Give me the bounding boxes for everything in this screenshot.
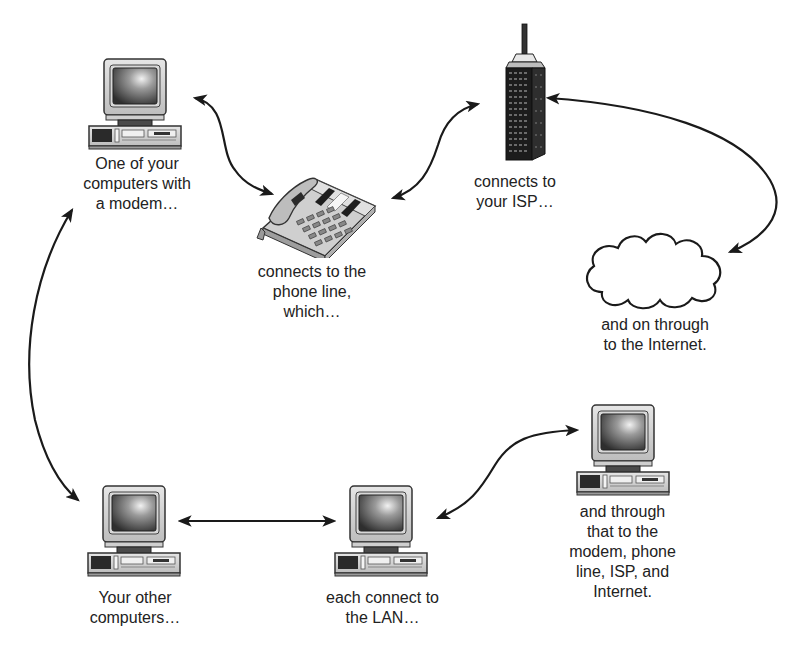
arrow-modem-to-other-computers [29, 210, 78, 500]
desktop-computer-icon [88, 57, 183, 150]
caption-line: computers… [60, 608, 210, 628]
internet-node [580, 222, 728, 318]
caption-line: phone line, [232, 282, 392, 302]
modem-computer-caption: One of your computers with a modem… [52, 154, 222, 214]
skyscraper-building-icon [503, 22, 548, 164]
caption-line: and on through [585, 315, 725, 335]
other-computers-node [87, 484, 182, 581]
caption-line: Your other [60, 588, 210, 608]
caption-line: a modem… [52, 194, 222, 214]
caption-line: computers with [52, 174, 222, 194]
isp-node [503, 22, 548, 168]
caption-line: One of your [52, 154, 222, 174]
telephone-icon [255, 166, 380, 258]
caption-line: Internet. [555, 582, 690, 602]
internet-caption: and on through to the Internet. [585, 315, 725, 355]
caption-line: that to the [555, 522, 690, 542]
caption-line: which… [232, 302, 392, 322]
cloud-icon [580, 222, 728, 314]
phone-node [255, 166, 380, 262]
isp-caption: connects to your ISP… [455, 172, 575, 212]
caption-line: your ISP… [455, 192, 575, 212]
lan-computer-node [334, 484, 429, 581]
through-computer-caption: and through that to the modem, phone lin… [555, 502, 690, 602]
other-computers-caption: Your other computers… [60, 588, 210, 628]
caption-line: and through [555, 502, 690, 522]
caption-line: each connect to [305, 588, 460, 608]
desktop-computer-icon [576, 403, 671, 496]
through-computer-node [576, 403, 671, 500]
desktop-computer-icon [87, 484, 182, 577]
lan-computer-caption: each connect to the LAN… [305, 588, 460, 628]
caption-line: modem, phone [555, 542, 690, 562]
caption-line: line, ISP, and [555, 562, 690, 582]
caption-line: to the Internet. [585, 335, 725, 355]
modem-computer-node [88, 57, 183, 154]
caption-line: connects to the [232, 262, 392, 282]
caption-line: the LAN… [305, 608, 460, 628]
phone-caption: connects to the phone line, which… [232, 262, 392, 322]
desktop-computer-icon [334, 484, 429, 577]
caption-line: connects to [455, 172, 575, 192]
